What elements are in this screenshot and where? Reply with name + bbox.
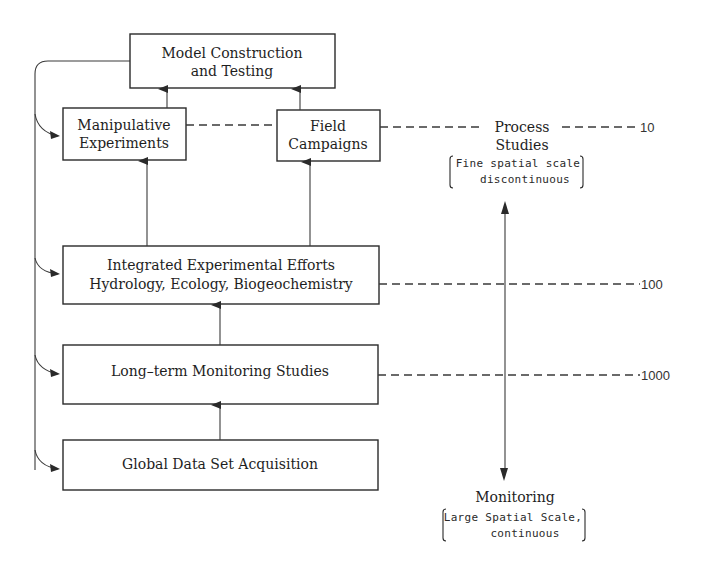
scale-tick-1000: 1000 (641, 368, 670, 383)
monitoring-title: Monitoring (475, 489, 554, 505)
arrow-head-icon (50, 464, 60, 472)
arrow-head-icon (50, 131, 60, 139)
process-title-line2: Studies (495, 137, 548, 153)
box-integrated-efforts: Integrated Experimental Efforts Hydrolog… (63, 246, 379, 304)
process-detail-line1: Fine spatial scale (456, 157, 581, 170)
process-detail-line2: discontinuous (480, 173, 570, 186)
box-field-line1: Field (310, 118, 346, 134)
box-integrated-line2: Hydrology, Ecology, Biogeochemistry (89, 276, 353, 292)
box-manipulative-line1: Manipulative (77, 117, 170, 133)
monitoring-detail-line1: Large Spatial Scale, (444, 511, 582, 524)
box-global-data: Global Data Set Acquisition (63, 440, 378, 490)
box-field-line2: Campaigns (288, 136, 367, 152)
box-integrated-line1: Integrated Experimental Efforts (107, 257, 335, 273)
process-studies-label: Process Studies Fine spatial scale disco… (450, 119, 583, 188)
monitoring-label: Monitoring Large Spatial Scale, continuo… (443, 489, 585, 541)
process-title-line1: Process (494, 119, 549, 135)
box-manipulative-line2: Experiments (79, 135, 169, 151)
arrow-up-icon (501, 201, 509, 214)
right-bracket-icon (580, 156, 583, 188)
scale-double-arrow (500, 201, 509, 481)
arrow-head-icon (50, 369, 60, 377)
box-manipulative-experiments: Manipulative Experiments (63, 108, 186, 160)
arrow-head-icon (50, 269, 60, 277)
left-bracket-icon (450, 156, 453, 188)
box-field-campaigns: Field Campaigns (277, 110, 380, 161)
right-bracket-icon (582, 509, 585, 541)
box-model-line1: Model Construction (161, 45, 302, 61)
monitoring-detail-line2: continuous (490, 527, 559, 540)
box-longterm-monitoring: Long–term Monitoring Studies (63, 345, 378, 404)
scale-tick-10: 10 (640, 120, 654, 135)
research-hierarchy-diagram: Model Construction and Testing Manipulat… (0, 0, 702, 568)
box-model-line2: and Testing (191, 63, 274, 79)
scale-tick-100: 100 (641, 277, 663, 292)
box-longterm-line1: Long–term Monitoring Studies (111, 363, 329, 379)
box-global-line1: Global Data Set Acquisition (122, 456, 318, 472)
arrow-down-icon (500, 468, 508, 481)
box-model-construction: Model Construction and Testing (130, 34, 335, 88)
